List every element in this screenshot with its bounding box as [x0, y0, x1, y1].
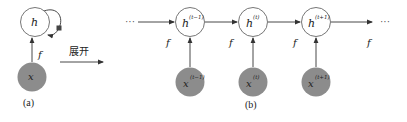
hidden-sup-t: (t): [253, 14, 260, 20]
hidden-node-h: h: [21, 8, 50, 37]
input-node-t: [239, 68, 268, 97]
edge-label-f-3: f: [366, 37, 373, 48]
unfold-label: 展开: [69, 46, 89, 57]
input-node-x: x: [18, 63, 47, 92]
edge-label-f: f: [37, 49, 44, 60]
input-node-t-plus-1: [302, 68, 331, 97]
edge-label-f-2: f: [292, 37, 299, 48]
hidden-node-t-minus-1: [176, 8, 205, 37]
unfold-arrow: 展开: [60, 46, 103, 62]
hidden-sup-t-minus-1: (t−1): [189, 14, 204, 20]
panel-a: h f x (a): [18, 8, 62, 110]
step-t-plus-1: h (t+1) x (t+1): [302, 8, 331, 97]
loop-delay-square-icon: [57, 26, 62, 31]
leading-ellipsis: ···: [125, 16, 135, 27]
input-sup-t: (t): [253, 74, 260, 80]
panel-b: ··· f h (t−1) x (t−1) f h (t) x (t) f: [125, 8, 390, 112]
panel-a-caption: (a): [23, 97, 34, 109]
hidden-node-t-plus-1: [302, 8, 331, 37]
hidden-node-label: h: [31, 16, 38, 29]
step-t-minus-1: h (t−1) x (t−1): [176, 8, 205, 97]
input-label-t: x: [246, 78, 252, 89]
trailing-ellipsis: ···: [380, 16, 390, 27]
edge-label-f-0: f: [165, 37, 172, 48]
rnn-unfold-diagram: h f x (a) 展开 ··· f h (t−1) x (t−1): [0, 0, 407, 122]
input-sup-t-plus-1: (t+1): [315, 74, 330, 80]
step-t: h (t) x (t): [239, 8, 268, 97]
input-label-t-minus-1: x: [183, 78, 189, 89]
input-node-label: x: [28, 71, 34, 82]
edge-label-f-1: f: [228, 37, 235, 48]
input-sup-t-minus-1: (t−1): [190, 74, 205, 80]
input-node-t-minus-1: [176, 68, 205, 97]
hidden-sup-t-plus-1: (t+1): [315, 14, 330, 20]
panel-b-caption: (b): [245, 99, 257, 111]
input-label-t-plus-1: x: [308, 78, 314, 89]
